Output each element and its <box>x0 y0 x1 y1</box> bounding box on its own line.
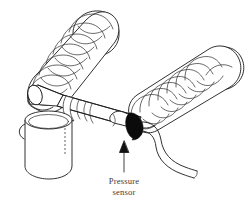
pressure-sensor-label-line2: sensor <box>113 187 136 197</box>
patient-connector-cylinder <box>19 111 72 179</box>
pressure-sensor-label-line1: Pressure <box>109 176 139 186</box>
breathing-circuit-line-drawing: Pressure sensor <box>0 0 252 205</box>
pressure-sensor-callout-arrow <box>120 141 129 172</box>
figure-container: Pressure sensor <box>0 0 252 205</box>
corrugated-tube-right <box>129 46 244 133</box>
